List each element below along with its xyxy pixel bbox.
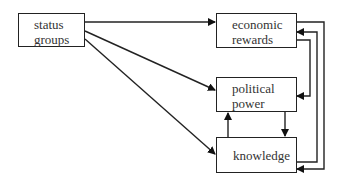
- edge-economic-to-political: [296, 40, 310, 96]
- node-knowledge: knowledge: [216, 137, 297, 173]
- node-economic-rewards: economic rewards: [216, 13, 297, 48]
- node-label: political: [232, 81, 296, 96]
- node-label: power: [232, 96, 296, 111]
- node-status-groups: status groups: [18, 13, 85, 47]
- node-label: rewards: [232, 32, 296, 47]
- node-political-power: political power: [216, 77, 297, 112]
- node-label: knowledge: [233, 148, 296, 163]
- edge-knowledge-to-economic: [296, 32, 317, 162]
- node-label: economic: [232, 17, 296, 32]
- node-label: groups: [34, 32, 84, 47]
- edge-status-to-knowledge: [85, 39, 215, 154]
- edge-status-to-political: [85, 31, 215, 90]
- node-label: status: [34, 17, 84, 32]
